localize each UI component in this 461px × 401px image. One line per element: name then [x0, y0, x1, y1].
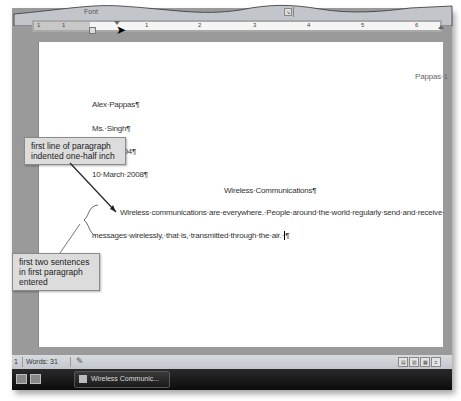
switch-windows-icon[interactable]: [30, 374, 41, 384]
proofing-icon[interactable]: ✎: [76, 356, 84, 366]
print-layout-view-button[interactable]: ▤: [398, 357, 408, 367]
outline-view-button[interactable]: ≡: [431, 357, 441, 367]
web-layout-view-button[interactable]: ▦: [420, 357, 430, 367]
status-page[interactable]: 1: [14, 358, 18, 365]
taskbar: Wireless Communic...: [12, 369, 452, 390]
status-bar: 1 Words: 31 ✎ ▤▥▦≡▭: [12, 354, 452, 369]
status-word-count[interactable]: Words: 31: [26, 358, 58, 365]
taskbar-task-label: Wireless Communic...: [91, 375, 159, 382]
word-document-icon: [79, 375, 87, 383]
taskbar-word-button[interactable]: Wireless Communic...: [74, 371, 170, 388]
callout-leader-lines: [0, 0, 461, 401]
status-separator: [70, 357, 71, 367]
show-desktop-icon[interactable]: [16, 374, 27, 384]
full-screen-reading-view-button[interactable]: ▥: [409, 357, 419, 367]
status-separator: [22, 357, 23, 367]
